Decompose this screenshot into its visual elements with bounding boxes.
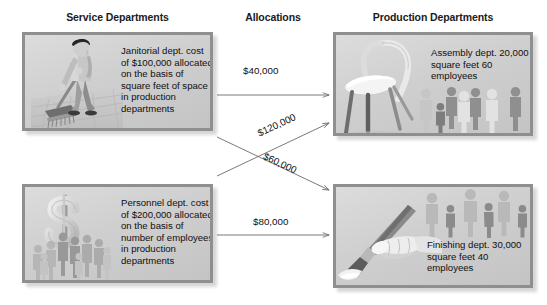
janitor-mopping-floor-icon [31, 37, 123, 131]
allocation-label-janitorial-to-finishing: $60,000 [262, 151, 299, 176]
panel-assembly-department: Assembly dept. 20,000 square feet 60 emp… [333, 32, 533, 136]
janitorial-department-description: Janitorial dept. cost of $100,000 alloca… [121, 45, 213, 115]
allocation-label-janitorial-to-assembly: $40,000 [243, 65, 278, 76]
people-group-icon [418, 87, 530, 135]
panel-janitorial-department: Janitorial dept. cost of $100,000 alloca… [22, 32, 213, 131]
dollar-sign-with-people-icon [29, 191, 123, 283]
column-header-service-departments: Service Departments [22, 11, 213, 23]
panel-personnel-department: Personnel dept. cost of $200,000 allocat… [22, 184, 213, 283]
assembly-department-description: Assembly dept. 20,000 square feet 60 emp… [431, 47, 533, 82]
finishing-department-description: Finishing dept. 30,000 square feet 40 em… [427, 239, 533, 274]
panel-finishing-department: Finishing dept. 30,000 square feet 40 em… [333, 184, 533, 288]
allocation-label-personnel-to-finishing: $80,000 [253, 216, 288, 227]
cost-allocation-diagram: Service Departments Allocations Producti… [0, 0, 547, 305]
allocation-label-personnel-to-assembly: $120,000 [256, 111, 298, 138]
column-header-allocations: Allocations [213, 11, 333, 23]
column-header-production-departments: Production Departments [333, 11, 533, 23]
personnel-department-description: Personnel dept. cost of $200,000 allocat… [121, 197, 213, 267]
